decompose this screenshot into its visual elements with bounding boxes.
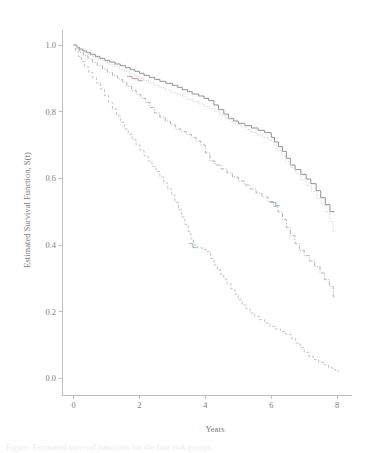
y-tick-label: 0.4 (46, 241, 57, 250)
y-axis-title: Estimated Survival Function, S(t) (22, 152, 32, 268)
survival-plot-svg: 0.00.20.40.60.81.0 02468 Years Estimated… (0, 0, 367, 453)
survival-curve-5 (127, 76, 143, 80)
y-axis-ticks: 0.00.20.40.60.81.0 (46, 41, 62, 383)
y-tick-label: 0.2 (46, 308, 56, 317)
x-tick-label: 0 (71, 401, 75, 410)
x-tick-label: 4 (203, 401, 208, 410)
x-axis-ticks: 02468 (71, 395, 339, 410)
survival-curve-7 (189, 244, 197, 248)
y-tick-label: 0.0 (46, 374, 56, 383)
survival-curve-3 (74, 45, 336, 297)
x-tick-label: 8 (335, 401, 339, 410)
figure-caption-strip: Figure. Estimated survival functions for… (0, 442, 367, 453)
survival-curve-1 (74, 45, 335, 212)
survival-curves-group (74, 45, 339, 372)
x-tick-label: 2 (137, 401, 141, 410)
x-axis-title: Years (205, 424, 225, 434)
y-tick-label: 0.6 (46, 174, 56, 183)
km-survival-figure: 0.00.20.40.60.81.0 02468 Years Estimated… (0, 0, 367, 453)
y-tick-label: 1.0 (46, 41, 56, 50)
x-tick-label: 6 (269, 401, 273, 410)
figure-caption-text: Figure. Estimated survival functions for… (0, 442, 367, 453)
survival-curve-6 (270, 202, 280, 205)
y-tick-label: 0.8 (46, 108, 56, 117)
survival-curve-4 (74, 45, 339, 372)
